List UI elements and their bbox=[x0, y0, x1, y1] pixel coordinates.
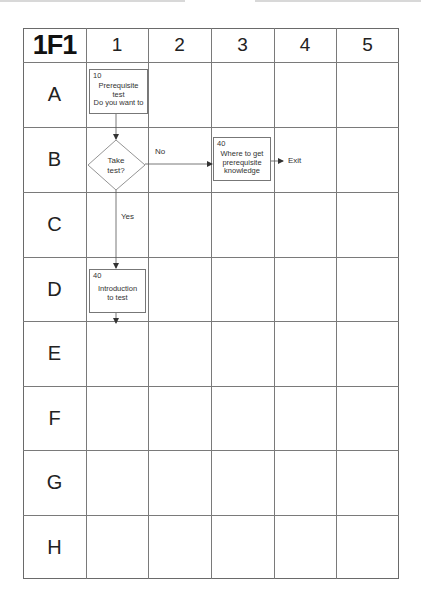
column-header-5: 5 bbox=[336, 28, 399, 62]
grid-vline bbox=[274, 28, 275, 579]
row-header-b: B bbox=[23, 127, 86, 192]
step-number: 40 bbox=[93, 272, 101, 281]
row-header-c: C bbox=[23, 192, 86, 257]
sheet-id-label: 1F1 bbox=[23, 28, 86, 62]
process-box-a1: 10 Prerequisite test Do you want to bbox=[89, 69, 148, 114]
grid-vline bbox=[148, 28, 149, 579]
no-branch-label: No bbox=[155, 147, 165, 156]
exit-label: Exit bbox=[288, 156, 301, 165]
process-box-d1: 40 Introduction to test bbox=[89, 269, 146, 313]
decision-text-b1: Take test? bbox=[96, 156, 136, 175]
yes-branch-label: Yes bbox=[121, 212, 134, 221]
row-header-h: H bbox=[23, 515, 86, 579]
step-number: 10 bbox=[93, 72, 101, 81]
process-box-b3: 40 Where to get prerequisite knowledge bbox=[213, 137, 271, 181]
step-number: 40 bbox=[217, 140, 225, 149]
column-header-3: 3 bbox=[211, 28, 274, 62]
grid-vline bbox=[211, 28, 212, 579]
scan-artifact-right bbox=[255, 0, 421, 2]
scan-artifact-left bbox=[0, 0, 185, 2]
row-header-g: G bbox=[23, 450, 86, 515]
grid-vline bbox=[336, 28, 337, 579]
column-header-1: 1 bbox=[86, 28, 148, 62]
step-text: Where to get prerequisite knowledge bbox=[214, 150, 270, 176]
column-header-4: 4 bbox=[274, 28, 336, 62]
row-header-e: E bbox=[23, 321, 86, 386]
grid-vline bbox=[86, 28, 87, 579]
column-header-2: 2 bbox=[148, 28, 211, 62]
row-header-f: F bbox=[23, 386, 86, 450]
row-header-a: A bbox=[23, 62, 86, 127]
step-text: Introduction to test bbox=[90, 285, 145, 302]
step-text: Prerequisite test Do you want to bbox=[90, 82, 147, 108]
row-header-d: D bbox=[23, 257, 86, 321]
